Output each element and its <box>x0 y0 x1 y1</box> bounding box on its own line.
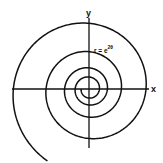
equation-exponent: 2θ <box>108 44 114 50</box>
equation-base: r = e <box>94 47 108 54</box>
y-axis-label: y <box>86 8 91 18</box>
spiral-figure: x y r = e2θ <box>0 0 163 163</box>
log-spiral-curve <box>13 23 146 161</box>
x-axis-label: x <box>151 84 156 94</box>
spiral-diagram: x y r = e2θ <box>0 0 163 163</box>
equation-label: r = e2θ <box>94 44 113 54</box>
